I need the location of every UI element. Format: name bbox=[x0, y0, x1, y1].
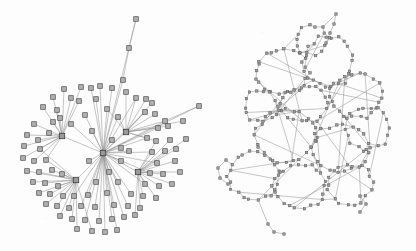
graph-node bbox=[305, 151, 307, 153]
graph-node bbox=[314, 127, 316, 129]
graph-node bbox=[312, 122, 314, 124]
graph-node bbox=[328, 184, 330, 186]
graph-node bbox=[298, 89, 300, 91]
graph-node bbox=[359, 72, 361, 74]
graph-node bbox=[284, 91, 286, 93]
graph-node bbox=[346, 164, 348, 166]
graph-node bbox=[90, 129, 95, 134]
graph-node bbox=[322, 193, 324, 195]
graph-node bbox=[314, 132, 316, 134]
graph-node bbox=[174, 147, 179, 152]
graph-node bbox=[264, 154, 266, 156]
graph-node bbox=[148, 171, 153, 176]
graph-node bbox=[238, 191, 240, 193]
graph-node bbox=[325, 42, 327, 44]
graph-node bbox=[257, 146, 259, 148]
graph-node bbox=[378, 101, 380, 103]
graph-node bbox=[343, 40, 345, 42]
graph-node bbox=[72, 194, 77, 199]
graph-node bbox=[292, 159, 294, 161]
graph-edge bbox=[344, 171, 372, 190]
graph-edge bbox=[282, 111, 300, 112]
graph-node bbox=[83, 113, 88, 118]
graph-node bbox=[121, 78, 126, 83]
graph-node bbox=[31, 180, 36, 185]
graph-node bbox=[51, 120, 56, 125]
graph-edge bbox=[365, 74, 370, 148]
graph-node bbox=[320, 127, 322, 129]
graph-node bbox=[324, 180, 326, 182]
graph-node bbox=[314, 54, 316, 56]
graph-node bbox=[262, 91, 264, 93]
graph-node bbox=[367, 142, 369, 144]
graph-node bbox=[349, 142, 351, 144]
graph-node bbox=[310, 204, 312, 206]
graph-node bbox=[170, 182, 175, 187]
graph-node bbox=[273, 231, 275, 233]
graph-node bbox=[263, 88, 265, 90]
graph-node bbox=[358, 129, 360, 131]
graph-node bbox=[347, 134, 349, 136]
left-graph-panel bbox=[0, 0, 208, 251]
graph-node bbox=[329, 87, 331, 89]
graph-node bbox=[272, 160, 274, 162]
graph-node bbox=[298, 158, 300, 160]
right-graph-panel bbox=[208, 0, 416, 251]
graph-node bbox=[69, 122, 74, 127]
graph-edge bbox=[274, 232, 284, 234]
graph-node bbox=[249, 119, 251, 121]
graph-node bbox=[366, 117, 368, 119]
graph-node bbox=[115, 228, 120, 233]
graph-node bbox=[50, 168, 55, 173]
graph-node bbox=[312, 79, 314, 81]
graph-node bbox=[266, 52, 268, 54]
graph-node bbox=[257, 150, 259, 152]
graph-node bbox=[365, 148, 367, 150]
graph-node bbox=[352, 126, 354, 128]
graph-node bbox=[21, 156, 26, 161]
graph-node bbox=[119, 146, 124, 151]
graph-node bbox=[304, 165, 306, 167]
graph-node bbox=[103, 230, 108, 235]
graph-node bbox=[61, 194, 66, 199]
graph-node bbox=[268, 91, 270, 93]
graph-node bbox=[325, 36, 327, 38]
graph-node bbox=[110, 138, 115, 143]
graph-node bbox=[367, 169, 369, 171]
graph-node bbox=[359, 195, 361, 197]
right-network-graph bbox=[208, 0, 416, 251]
graph-node bbox=[303, 208, 305, 210]
graph-node bbox=[322, 26, 324, 28]
graph-node bbox=[153, 112, 158, 117]
graph-node bbox=[334, 198, 336, 200]
graph-hub-node bbox=[135, 169, 140, 174]
graph-node bbox=[94, 97, 99, 102]
graph-node bbox=[296, 38, 298, 40]
graph-node bbox=[107, 170, 112, 175]
graph-node bbox=[379, 82, 381, 84]
graph-node bbox=[360, 115, 362, 117]
graph-node bbox=[173, 159, 178, 164]
graph-node bbox=[269, 112, 271, 114]
graph-node bbox=[44, 202, 49, 207]
graph-node bbox=[314, 140, 316, 142]
graph-edge bbox=[72, 180, 76, 219]
graph-node bbox=[306, 51, 308, 53]
graph-node bbox=[329, 169, 331, 171]
graph-node bbox=[344, 82, 346, 84]
graph-node bbox=[341, 123, 343, 125]
graph-node bbox=[257, 199, 259, 201]
graph-node bbox=[145, 136, 150, 141]
graph-edge bbox=[311, 80, 340, 147]
graph-edge bbox=[307, 121, 317, 122]
graph-node bbox=[25, 169, 30, 174]
graph-node bbox=[307, 118, 309, 120]
graph-node bbox=[320, 89, 322, 91]
graph-node bbox=[77, 99, 82, 104]
graph-node bbox=[304, 77, 306, 79]
graph-node bbox=[55, 108, 60, 113]
graph-node bbox=[231, 164, 233, 166]
left-graph-nodes bbox=[21, 17, 202, 235]
graph-node bbox=[255, 78, 257, 80]
graph-node bbox=[241, 154, 243, 156]
